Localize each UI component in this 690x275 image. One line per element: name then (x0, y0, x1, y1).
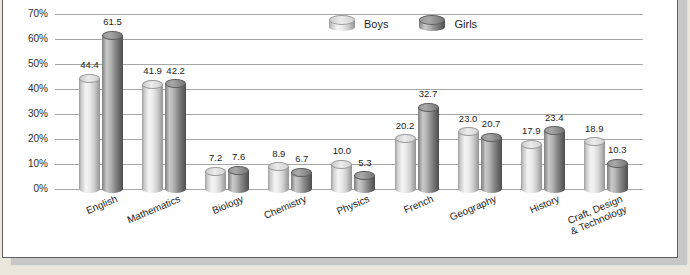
y-tick-50%: 50% (12, 58, 48, 70)
y-tick-10%: 10% (12, 158, 48, 170)
bar-boys-history (521, 144, 542, 193)
value-label-girls-mathematics: 42.2 (155, 65, 197, 76)
value-label-girls-biology: 7.6 (218, 151, 260, 162)
value-label-boys-physics: 10.0 (321, 145, 363, 156)
bar-top-boys-mathematics (142, 80, 163, 89)
chart-figure: 0%10%20%30%40%50%60%70%44.461.5English41… (0, 0, 690, 275)
y-tick-0%: 0% (12, 183, 48, 195)
bar-girls-mathematics (165, 84, 186, 194)
value-label-girls-english: 61.5 (92, 16, 134, 27)
y-tick-40%: 40% (12, 83, 48, 95)
y-tick-70%: 70% (12, 8, 48, 20)
bar-top-girls-biology (228, 166, 249, 175)
bar-girls-geography (481, 137, 502, 193)
bar-top-girls-english (102, 31, 123, 40)
value-label-girls-physics: 5.3 (344, 157, 386, 168)
value-label-girls-craft-design-technology: 10.3 (596, 144, 638, 155)
bar-girls-history (544, 131, 565, 194)
bar-top-girls-history (544, 126, 565, 135)
bar-girls-english (102, 35, 123, 193)
bar-top-boys-biology (205, 167, 226, 176)
legend-label-boys: Boys (364, 18, 388, 30)
value-label-girls-geography: 20.7 (470, 118, 512, 129)
legend: Boys Girls (329, 13, 477, 35)
legend-label-girls: Girls (454, 18, 477, 30)
bar-top-boys-french (395, 134, 416, 143)
bar-top-girls-geography (481, 133, 502, 142)
bar-boys-english (79, 78, 100, 193)
bar-top-girls-craft-design-technology (607, 159, 628, 168)
bar-top-boys-history (521, 140, 542, 149)
bar-top-girls-mathematics (165, 79, 186, 88)
value-label-girls-chemistry: 6.7 (281, 153, 323, 164)
boys-cylinder-icon (329, 15, 355, 33)
legend-item-boys: Boys (329, 15, 388, 33)
bar-girls-french (418, 107, 439, 193)
gridline-60% (55, 39, 643, 40)
y-tick-60%: 60% (12, 33, 48, 45)
plot-area: 0%10%20%30%40%50%60%70%44.461.5English41… (0, 0, 690, 275)
value-label-boys-craft-design-technology: 18.9 (573, 123, 615, 134)
bar-top-boys-english (79, 74, 100, 83)
bar-boys-mathematics (142, 84, 163, 193)
y-tick-20%: 20% (12, 133, 48, 145)
bar-boys-geography (458, 132, 479, 194)
y-tick-30%: 30% (12, 108, 48, 120)
girls-cylinder-icon (419, 15, 445, 33)
legend-item-girls: Girls (419, 15, 477, 33)
category-label-english: English (14, 194, 119, 247)
bar-top-girls-chemistry (291, 168, 312, 177)
bar-top-girls-french (418, 103, 439, 112)
value-label-girls-french: 32.7 (407, 88, 449, 99)
value-label-girls-history: 23.4 (533, 112, 575, 123)
bar-boys-french (395, 139, 416, 194)
